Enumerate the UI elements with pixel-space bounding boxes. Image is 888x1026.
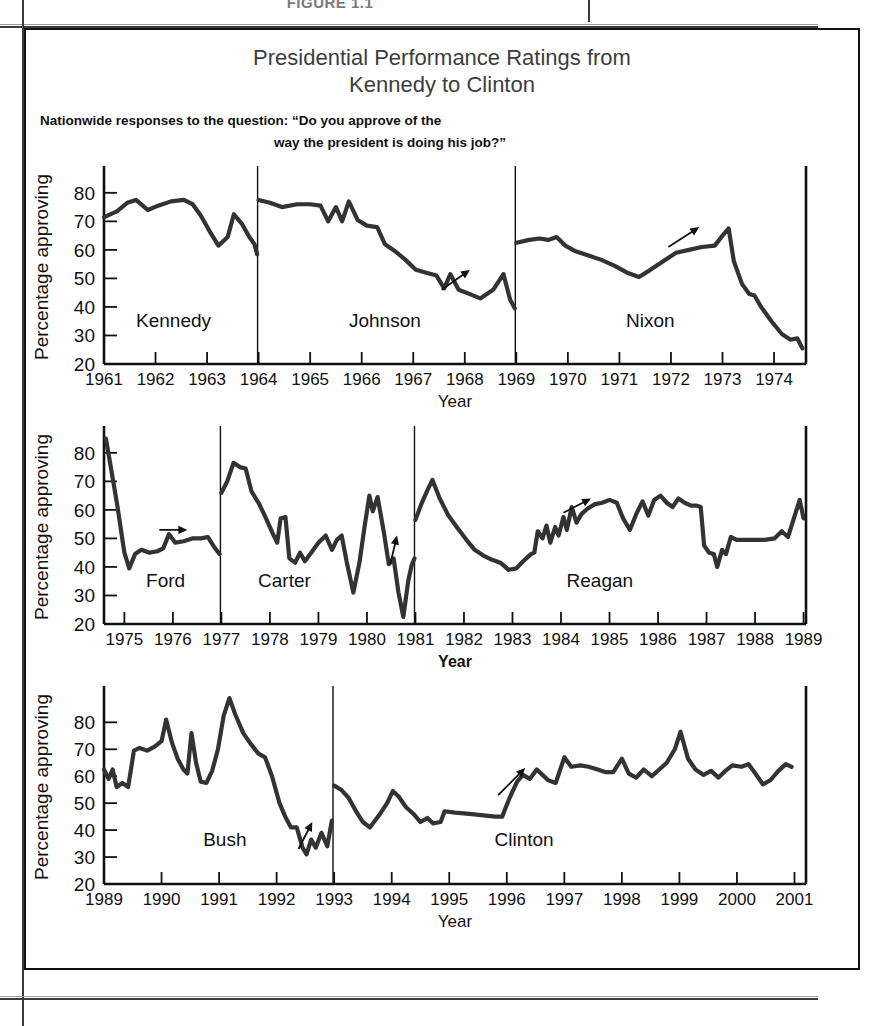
y-tick-label-60: 60: [74, 766, 95, 787]
x-tick-label-1995: 1995: [430, 890, 468, 909]
figure-title-line2: Kennedy to Clinton: [349, 72, 535, 97]
x-tick-label-1993: 1993: [315, 890, 353, 909]
y-tick-label-50: 50: [74, 268, 95, 289]
y-tick-label-70: 70: [74, 739, 95, 760]
figure-subtitle: Nationwide responses to the question: “D…: [40, 110, 700, 154]
figure-subtitle-line2: way the president is doing his job?”: [40, 132, 700, 154]
panel-1-svg: 2030405060708019611962196319641965196619…: [26, 158, 862, 410]
x-tick-label-1981: 1981: [397, 630, 435, 649]
x-tick-label-1962: 1962: [137, 370, 175, 389]
president-label-carter: Carter: [258, 570, 311, 591]
x-tick-label-1998: 1998: [603, 890, 641, 909]
figure-title: Presidential Performance Ratings from Ke…: [26, 44, 858, 98]
page-rule-bottom-thin: [0, 996, 818, 997]
x-tick-label-1990: 1990: [143, 890, 181, 909]
president-label-clinton: Clinton: [494, 829, 553, 850]
x-tick-label-1988: 1988: [736, 630, 774, 649]
x-tick-label-1964: 1964: [240, 370, 278, 389]
figure-caption-stub: FIGURE 1.1: [205, 0, 455, 10]
x-axis-label: Year: [438, 912, 473, 930]
president-label-nixon: Nixon: [626, 310, 675, 331]
president-label-reagan: Reagan: [567, 570, 634, 591]
x-tick-label-1970: 1970: [549, 370, 587, 389]
y-tick-label-80: 80: [74, 183, 95, 204]
x-tick-label-1978: 1978: [251, 630, 289, 649]
x-tick-label-1986: 1986: [639, 630, 677, 649]
page-rule-top-thin: [0, 24, 818, 25]
x-tick-label-1991: 1991: [200, 890, 238, 909]
x-tick-label-1974: 1974: [755, 370, 793, 389]
x-tick-label-1965: 1965: [291, 370, 329, 389]
y-tick-label-50: 50: [74, 528, 95, 549]
x-tick-label-1971: 1971: [601, 370, 639, 389]
x-tick-label-2000: 2000: [718, 890, 756, 909]
chart-panel-kennedy-johnson-nixon: 2030405060708019611962196319641965196619…: [26, 158, 862, 410]
y-tick-label-20: 20: [74, 614, 95, 635]
chart-panel-bush-clinton: 2030405060708019891990199119921993199419…: [26, 678, 862, 930]
series-line-kennedy: [104, 200, 257, 254]
x-tick-label-1985: 1985: [591, 630, 629, 649]
figure-subtitle-line1: Nationwide responses to the question: “D…: [40, 110, 700, 132]
x-tick-label-1982: 1982: [445, 630, 483, 649]
chart-panel-ford-carter-reagan: 2030405060708019751976197719781979198019…: [26, 418, 862, 670]
y-tick-label-80: 80: [74, 443, 95, 464]
trend-arrow-shaft-2: [668, 230, 695, 247]
x-tick-label-1977: 1977: [202, 630, 240, 649]
x-tick-label-1987: 1987: [688, 630, 726, 649]
panel-3-svg: 2030405060708019891990199119921993199419…: [26, 678, 862, 930]
trend-arrow-head-2: [690, 227, 700, 235]
trend-arrow-head-1: [178, 526, 187, 534]
y-tick-label-60: 60: [74, 240, 95, 261]
figure-box: Presidential Performance Ratings from Ke…: [24, 28, 860, 970]
x-tick-label-1983: 1983: [494, 630, 532, 649]
trend-arrow-head-1: [460, 270, 470, 279]
x-tick-label-1973: 1973: [704, 370, 742, 389]
y-tick-label-40: 40: [74, 820, 95, 841]
trend-arrow-head-2: [391, 536, 399, 546]
x-tick-label-1999: 1999: [660, 890, 698, 909]
x-tick-label-1984: 1984: [542, 630, 580, 649]
y-axis-label: Percentage approving: [31, 694, 52, 880]
y-tick-label-30: 30: [74, 847, 95, 868]
y-tick-label-30: 30: [74, 585, 95, 606]
y-tick-label-50: 50: [74, 793, 95, 814]
x-tick-label-1968: 1968: [446, 370, 484, 389]
y-tick-label-40: 40: [74, 557, 95, 578]
x-tick-label-1979: 1979: [300, 630, 338, 649]
page-tick-mark: [588, 0, 590, 22]
x-tick-label-1966: 1966: [343, 370, 381, 389]
x-tick-label-1994: 1994: [373, 890, 411, 909]
y-tick-label-70: 70: [74, 471, 95, 492]
x-tick-label-2001: 2001: [776, 890, 814, 909]
y-axis-label: Percentage approving: [31, 174, 52, 360]
figure-title-line1: Presidential Performance Ratings from: [253, 45, 631, 70]
y-axis-label: Percentage approving: [31, 434, 52, 620]
x-tick-label-1963: 1963: [188, 370, 226, 389]
x-tick-label-1989: 1989: [785, 630, 823, 649]
series-line-carter: [221, 463, 414, 617]
y-tick-label-40: 40: [74, 297, 95, 318]
president-label-johnson: Johnson: [349, 310, 421, 331]
series-line-johnson: [259, 200, 515, 308]
x-tick-label-1969: 1969: [497, 370, 535, 389]
x-axis-label: Year: [438, 653, 472, 670]
x-tick-label-1976: 1976: [154, 630, 192, 649]
series-line-reagan: [415, 480, 803, 570]
president-label-ford: Ford: [146, 570, 185, 591]
x-tick-label-1975: 1975: [105, 630, 143, 649]
x-tick-label-1992: 1992: [258, 890, 296, 909]
x-tick-label-1989: 1989: [85, 890, 123, 909]
x-axis-label: Year: [438, 392, 473, 410]
y-tick-label-60: 60: [74, 500, 95, 521]
x-tick-label-1961: 1961: [85, 370, 123, 389]
panel-2-svg: 2030405060708019751976197719781979198019…: [26, 418, 862, 670]
x-tick-label-1972: 1972: [652, 370, 690, 389]
series-line-ford: [106, 439, 220, 569]
series-line-clinton: [334, 732, 791, 828]
y-tick-label-70: 70: [74, 211, 95, 232]
y-tick-label-30: 30: [74, 325, 95, 346]
y-tick-label-80: 80: [74, 712, 95, 733]
x-tick-label-1967: 1967: [394, 370, 432, 389]
page-rule-bottom: [0, 998, 818, 1000]
president-label-kennedy: Kennedy: [136, 310, 212, 331]
